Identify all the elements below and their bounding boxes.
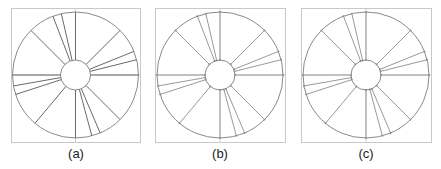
spoke-tick-mark	[343, 15, 345, 17]
spoke-tick-mark	[362, 59, 364, 61]
spoke-tick-mark	[380, 70, 382, 72]
spoke-tick-mark	[365, 137, 367, 139]
spoke-tick-mark	[381, 135, 383, 137]
spoke-line	[370, 89, 382, 135]
spoke-tick-mark	[380, 74, 382, 76]
spoke-line	[372, 89, 391, 133]
spoke-tick-mark	[351, 79, 353, 81]
spoke-tick-mark	[351, 13, 353, 15]
spoke-tick-mark	[369, 89, 371, 91]
spoke-tick-mark	[355, 86, 357, 88]
spoke-tick-mark	[365, 11, 367, 13]
spoke-tick-mark	[303, 85, 305, 87]
spoke-tick-mark	[350, 77, 352, 79]
spoke-tick-mark	[325, 122, 327, 124]
spoke-tick-mark	[410, 119, 412, 121]
spoke-line	[381, 60, 428, 72]
spoke-tick-mark	[305, 94, 307, 96]
spoke-tick-mark	[321, 30, 323, 32]
spoke-tick-mark	[410, 30, 412, 32]
spoke-tick-mark	[371, 88, 373, 90]
spoke-tick-mark	[426, 59, 428, 61]
spoke-tick-mark	[302, 74, 304, 76]
panel-label-c: (c)	[336, 146, 396, 161]
spoke-tick-mark	[365, 59, 367, 61]
wheel-diagram-c	[0, 0, 441, 169]
spoke-tick-mark	[365, 89, 367, 91]
spoke-line	[321, 30, 355, 64]
spoke-tick-mark	[376, 63, 378, 65]
spoke-tick-mark	[379, 68, 381, 70]
spoke-line	[326, 86, 357, 123]
spoke-tick-mark	[360, 60, 362, 62]
spoke-tick-mark	[350, 74, 352, 76]
spoke-tick-mark	[424, 50, 426, 52]
spoke-tick-mark	[390, 132, 392, 134]
spoke-tick-mark	[428, 74, 430, 76]
spoke-tick-mark	[354, 63, 356, 65]
spoke-line	[377, 86, 411, 120]
spoke-tick-mark	[376, 85, 378, 87]
